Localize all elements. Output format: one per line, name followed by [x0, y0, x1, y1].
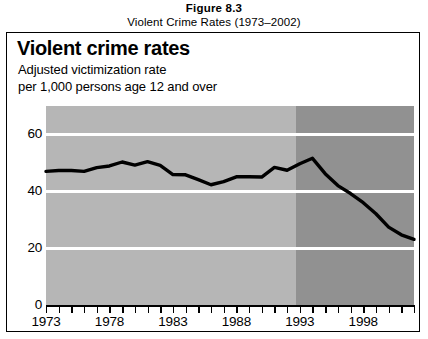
x-axis-tick-label: 1973	[31, 314, 60, 329]
x-axis-tick	[236, 306, 237, 313]
y-axis-tick-label: 60	[8, 127, 42, 141]
y-axis-tick-label: 0	[8, 298, 42, 312]
series-line-chart	[46, 106, 414, 305]
y-axis-tick-label: 40	[8, 184, 42, 198]
y-axis-tick-label: 20	[8, 241, 42, 255]
x-axis-tick	[46, 306, 47, 313]
x-axis-tick	[71, 306, 72, 313]
x-axis-tick	[401, 306, 402, 313]
x-axis-tick-label: 1988	[222, 314, 251, 329]
x-axis-tick	[186, 306, 187, 313]
x-axis-tick	[325, 306, 326, 313]
x-axis-tick	[211, 306, 212, 313]
x-axis-tick	[312, 306, 313, 313]
x-axis-tick	[135, 306, 136, 313]
x-axis-tick	[262, 306, 263, 313]
x-axis-tick-label: 1998	[349, 314, 378, 329]
x-axis-tick-label: 1993	[285, 314, 314, 329]
x-axis-tick	[363, 306, 364, 313]
chart-frame: Violent crime rates Adjusted victimizati…	[6, 32, 420, 332]
figure-title: Violent Crime Rates (1973–2002)	[0, 15, 428, 29]
x-axis-tick	[224, 306, 225, 313]
figure-caption: Figure 8.3 Violent Crime Rates (1973–200…	[0, 0, 428, 29]
x-axis-tick	[287, 306, 288, 313]
x-axis-tick	[389, 306, 390, 313]
x-axis-tick	[173, 306, 174, 313]
plot-wrapper: 0204060 197319781983198819931998	[7, 33, 421, 333]
x-axis-tick	[59, 306, 60, 313]
x-axis-tick-label: 1983	[158, 314, 187, 329]
x-axis-tick	[414, 306, 415, 313]
x-axis-tick	[148, 306, 149, 313]
x-axis-tick	[351, 306, 352, 313]
x-axis-tick	[109, 306, 110, 313]
x-axis-tick	[122, 306, 123, 313]
x-axis-tick	[300, 306, 301, 313]
x-axis-tick-label: 1978	[95, 314, 124, 329]
y-axis-labels: 0204060	[7, 106, 42, 305]
x-axis-tick	[274, 306, 275, 313]
plot-area	[46, 106, 414, 305]
x-axis-ticks	[46, 306, 415, 313]
figure-number: Figure 8.3	[0, 2, 428, 15]
x-axis-tick	[198, 306, 199, 313]
x-axis-tick	[84, 306, 85, 313]
x-axis-tick	[376, 306, 377, 313]
x-axis-tick	[160, 306, 161, 313]
x-axis-tick	[249, 306, 250, 313]
series-violent-crime-rate	[46, 158, 414, 239]
x-axis-tick	[97, 306, 98, 313]
x-axis-tick	[338, 306, 339, 313]
x-axis-labels: 197319781983198819931998	[7, 314, 421, 334]
